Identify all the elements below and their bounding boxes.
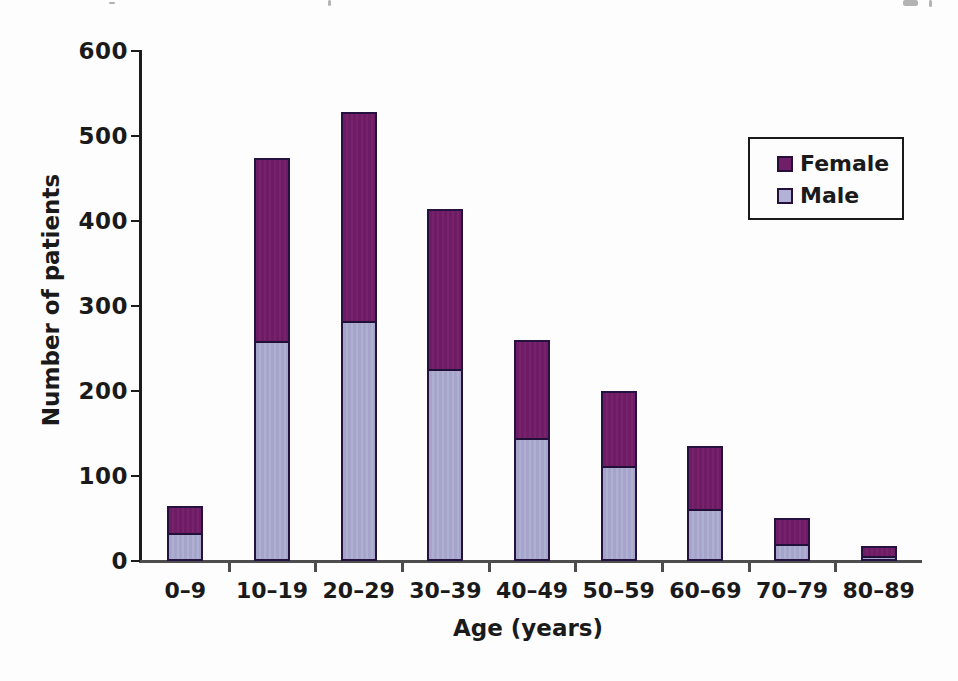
scan-artifact (903, 0, 918, 6)
y-tick-label: 100 (8, 462, 128, 490)
x-category-label: 40–49 (487, 578, 577, 604)
legend-entry-male: Male (777, 180, 902, 212)
bar-40-49 (514, 340, 550, 561)
bar-30-39 (427, 209, 463, 561)
y-tick (131, 220, 140, 222)
x-category-label: 0–9 (140, 578, 230, 604)
bar-segment-female (776, 520, 808, 546)
y-tick-label: 300 (8, 292, 128, 320)
x-category-label: 60–69 (660, 578, 750, 604)
bar-segment-female (429, 211, 461, 371)
x-axis-title: Age (years) (453, 615, 603, 641)
scan-artifact (929, 0, 932, 7)
y-tick-label: 400 (8, 207, 128, 235)
x-category-label: 20–29 (314, 578, 404, 604)
legend-label: Female (800, 153, 889, 175)
bar-segment-female (256, 160, 288, 343)
bar-segment-female (343, 114, 375, 323)
x-tick (834, 562, 837, 572)
bar-segment-female (863, 548, 895, 558)
x-category-label: 80–89 (834, 578, 924, 604)
y-tick (131, 135, 140, 137)
y-tick (131, 475, 140, 477)
x-tick (574, 562, 577, 572)
x-tick (661, 562, 664, 572)
y-tick-label: 200 (8, 377, 128, 405)
y-tick (131, 560, 140, 562)
x-tick (748, 562, 751, 572)
legend-label: Male (800, 185, 859, 207)
x-category-label: 30–39 (400, 578, 490, 604)
x-tick (314, 562, 317, 572)
x-tick (488, 562, 491, 572)
x-category-label: 50–59 (574, 578, 664, 604)
x-category-label: 10–19 (227, 578, 317, 604)
legend-swatch-female-icon (777, 156, 793, 172)
y-tick (131, 50, 140, 52)
bar-segment-female (689, 448, 721, 511)
scan-artifact (109, 2, 115, 4)
legend-swatch-male-icon (777, 188, 793, 204)
bar-50-59 (601, 391, 637, 561)
bar-80-89 (861, 546, 897, 561)
legend: FemaleMale (748, 137, 904, 220)
y-tick (131, 390, 140, 392)
y-tick (131, 305, 140, 307)
legend-entry-female: Female (777, 148, 902, 180)
x-tick (401, 562, 404, 572)
y-tick-label: 500 (8, 122, 128, 150)
y-tick-label: 600 (8, 37, 128, 65)
y-tick-label: 0 (8, 547, 128, 575)
bar-70-79 (774, 518, 810, 561)
bar-segment-female (169, 508, 201, 535)
x-tick (228, 562, 231, 572)
bar-segment-female (516, 342, 548, 440)
x-category-label: 70–79 (747, 578, 837, 604)
stacked-bar-chart-figure: Number of patients Age (years) FemaleMal… (0, 0, 958, 681)
bar-60-69 (687, 446, 723, 561)
scan-artifact (328, 0, 331, 6)
bar-segment-female (603, 393, 635, 468)
bar-10-19 (254, 158, 290, 561)
bar-20-29 (341, 112, 377, 561)
bar-0-9 (167, 506, 203, 561)
